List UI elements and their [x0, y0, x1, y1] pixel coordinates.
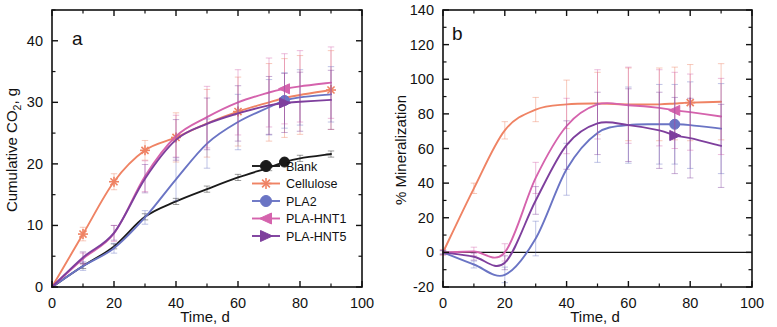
y-tick-label: 100 [410, 71, 434, 87]
panel-b-tick-labels: 020406080100-20020406080100120140 [410, 2, 764, 311]
legend-label: PLA-HNT5 [286, 230, 346, 244]
legend-label: Blank [286, 160, 318, 174]
x-tick-label: 60 [620, 295, 636, 311]
x-tick-label: 20 [106, 295, 122, 311]
data-point-marker-cellulose [78, 229, 88, 239]
panel-a-x-axis-title: Time, d [180, 308, 229, 325]
panel-b-svg: 020406080100-20020406080100120140 b Time… [390, 0, 777, 327]
panel-a-cumulative-co2: 020406080100010203040 BlankCellulosePLA2… [0, 0, 390, 327]
legend-item-cellulose[interactable]: Cellulose [252, 177, 337, 191]
panel-b-data-layer [440, 64, 752, 283]
x-tick-label: 0 [48, 295, 56, 311]
legend-label: Cellulose [286, 177, 337, 191]
legend-triangle-right-marker [261, 231, 273, 242]
error-bars-pla-hnt1 [440, 67, 725, 261]
panel-b-letter: b [452, 23, 463, 44]
figure-container: 020406080100010203040 BlankCellulosePLA2… [0, 0, 777, 327]
y-tick-label: 20 [418, 210, 434, 226]
panel-a-svg: 020406080100010203040 BlankCellulosePLA2… [0, 0, 390, 327]
y-tick-label: 60 [418, 141, 434, 157]
legend-item-pla-hnt5[interactable]: PLA-HNT5 [252, 230, 346, 244]
y-tick-label: 140 [410, 2, 434, 18]
data-point-marker-cellulose [140, 145, 150, 155]
legend-circle-marker [261, 161, 272, 172]
y-tick-label: -20 [413, 279, 434, 295]
y-tick-label: 10 [27, 217, 43, 233]
x-tick-label: 100 [740, 295, 764, 311]
panel-a-y-axis-title: Cumulative CO2, g [3, 88, 23, 212]
panel-a-legend: BlankCellulosePLA2PLA-HNT1PLA-HNT5 [252, 160, 346, 244]
x-tick-label: 20 [497, 295, 513, 311]
panel-b-x-axis-title: Time, d [570, 308, 619, 325]
y-tick-label: 20 [27, 156, 43, 172]
x-tick-label: 80 [292, 295, 308, 311]
legend-triangle-left-marker [260, 213, 272, 224]
x-tick-label: 60 [230, 295, 246, 311]
panel-b-y-axis-title: % Mineralization [392, 95, 409, 205]
legend-label: PLA2 [286, 195, 317, 209]
legend-label: PLA-HNT1 [286, 212, 346, 226]
y-tick-label: 0 [426, 244, 434, 260]
x-tick-label: 0 [439, 295, 447, 311]
legend-item-pla-hnt1[interactable]: PLA-HNT1 [252, 212, 346, 226]
legend-circle-marker [261, 196, 272, 207]
y-tick-label: 40 [27, 33, 43, 49]
y-tick-label: 30 [27, 94, 43, 110]
y-tick-label: 40 [418, 175, 434, 191]
legend-asterisk-marker [261, 178, 272, 189]
y-tick-label: 120 [410, 37, 434, 53]
panel-a-letter: a [72, 28, 83, 49]
series-line-pla2 [443, 124, 721, 276]
panel-b-mineralization: 020406080100-20020406080100120140 b Time… [390, 0, 777, 327]
error-bars-pla-hnt5 [440, 89, 725, 270]
error-bars-cellulose [440, 64, 725, 255]
series-line-pla-hnt5 [443, 122, 721, 266]
y-tick-label: 80 [418, 106, 434, 122]
x-tick-label: 100 [350, 295, 374, 311]
legend-item-pla2[interactable]: PLA2 [252, 195, 317, 209]
data-point-marker-cellulose [109, 177, 119, 187]
x-tick-label: 80 [682, 295, 698, 311]
y-tick-label: 0 [35, 279, 43, 295]
